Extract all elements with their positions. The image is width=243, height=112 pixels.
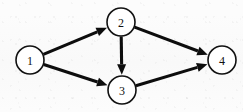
node-1[interactable]: 1 — [16, 46, 44, 74]
graph-canvas: 1234 — [0, 0, 243, 112]
edge-3-to-4 — [136, 67, 197, 85]
edge-1-to-2 — [43, 32, 97, 55]
edge-2-to-4 — [135, 27, 198, 51]
arrowhead-3-to-4 — [196, 63, 207, 72]
nodes-layer: 1234 — [16, 8, 236, 104]
arrowhead-1-to-3 — [96, 78, 107, 87]
node-3[interactable]: 3 — [108, 76, 136, 104]
arrowhead-2-to-3 — [117, 64, 126, 75]
arrowhead-2-to-4 — [196, 47, 207, 55]
node-label-3: 3 — [119, 84, 125, 98]
node-label-1: 1 — [27, 54, 33, 68]
graph-diagram: 1234 — [0, 0, 243, 112]
node-label-2: 2 — [118, 16, 124, 30]
edge-1-to-3 — [44, 65, 98, 83]
node-label-4: 4 — [219, 54, 225, 68]
node-4[interactable]: 4 — [208, 46, 236, 74]
node-2[interactable]: 2 — [107, 8, 135, 36]
